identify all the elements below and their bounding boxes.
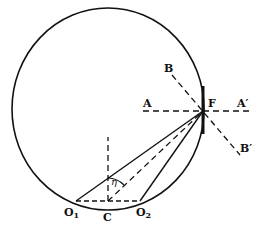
label-o1-base: O bbox=[64, 206, 74, 219]
label-c: C bbox=[103, 211, 112, 224]
line-o1-f bbox=[76, 111, 203, 201]
diagram-canvas: B A F A′ B′ η O1 C O2 bbox=[0, 0, 264, 228]
label-o1: O1 bbox=[64, 206, 79, 220]
label-b-prime: B′ bbox=[240, 142, 252, 155]
label-o1-sub: 1 bbox=[74, 210, 80, 220]
label-o2-sub: 2 bbox=[146, 210, 152, 220]
label-o2-base: O bbox=[136, 206, 146, 219]
label-o2: O2 bbox=[136, 206, 151, 220]
label-a-prime: A′ bbox=[236, 97, 249, 110]
label-a: A bbox=[142, 97, 152, 110]
label-eta: η bbox=[111, 176, 117, 187]
label-f: F bbox=[208, 97, 216, 110]
label-b: B bbox=[164, 62, 173, 75]
line-b-b-prime bbox=[172, 75, 240, 155]
line-c-f bbox=[108, 111, 203, 201]
